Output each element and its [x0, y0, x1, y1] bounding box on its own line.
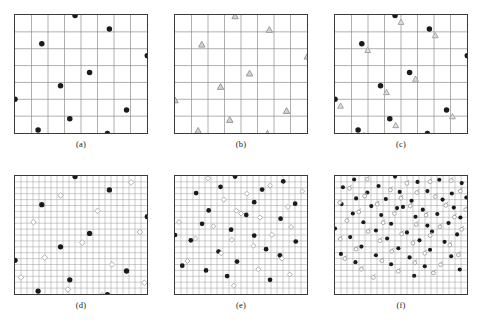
- diamond-marker: [285, 204, 290, 209]
- diamond-marker: [18, 275, 24, 281]
- triangle-marker: [283, 108, 289, 114]
- circle-marker: [385, 236, 389, 240]
- circle-marker: [465, 53, 468, 59]
- circle-marker: [235, 259, 240, 264]
- marker-set-circles: [334, 175, 468, 278]
- circle-marker: [408, 255, 412, 259]
- circle-marker: [341, 185, 345, 189]
- circle-marker: [379, 213, 383, 217]
- circle-marker: [334, 226, 337, 230]
- teardrop-marker: [338, 236, 342, 241]
- teardrop-marker: [392, 210, 396, 215]
- circle-marker: [458, 215, 462, 219]
- circle-marker: [35, 288, 40, 293]
- teardrop-marker: [414, 222, 418, 227]
- circle-marker: [398, 190, 402, 194]
- panel-markers: [15, 176, 147, 294]
- diamond-marker: [142, 280, 148, 286]
- circle-marker: [423, 264, 427, 268]
- circle-marker: [407, 70, 413, 76]
- triangle-marker: [361, 132, 367, 134]
- circle-marker: [393, 175, 397, 179]
- teardrop-marker: [408, 203, 412, 208]
- circle-marker: [145, 214, 148, 219]
- circle-marker: [405, 230, 409, 234]
- panel-markers: [335, 176, 467, 294]
- diamond-marker: [270, 232, 275, 237]
- diamond-marker: [239, 211, 244, 216]
- circle-marker: [107, 187, 112, 192]
- triangle-marker: [195, 127, 201, 133]
- panel-plot-area-a: [14, 14, 148, 134]
- teardrop-marker: [396, 268, 400, 273]
- panel-b: (b): [174, 14, 308, 150]
- circle-marker: [268, 277, 273, 282]
- teardrop-marker: [439, 262, 443, 267]
- panel-label-a: (a): [14, 139, 148, 149]
- triangle-marker: [264, 130, 270, 134]
- diamond-marker: [58, 193, 64, 199]
- circle-marker: [412, 274, 416, 278]
- circle-marker: [425, 131, 431, 134]
- diamond-marker: [99, 292, 105, 295]
- teardrop-marker: [399, 195, 403, 200]
- diamond-marker: [137, 229, 143, 235]
- circle-marker: [452, 206, 456, 210]
- circle-marker: [260, 187, 265, 192]
- circle-marker: [460, 181, 464, 185]
- teardrop-marker: [431, 270, 435, 275]
- panel-label-b: (b): [174, 139, 308, 149]
- diamond-marker: [231, 283, 236, 288]
- circle-marker: [252, 233, 257, 238]
- teardrop-marker: [366, 228, 370, 233]
- panel-a: (a): [14, 14, 148, 150]
- circle-marker: [14, 97, 18, 103]
- triangle-marker: [365, 47, 371, 52]
- teardrop-marker: [348, 185, 352, 190]
- teardrop-marker: [424, 212, 428, 217]
- marker-set-circles: [14, 175, 148, 295]
- circle-marker: [417, 238, 421, 242]
- triangle-marker: [413, 76, 419, 81]
- marker-set-triangles: [338, 19, 468, 134]
- circle-marker: [415, 180, 419, 184]
- circle-marker: [200, 221, 205, 226]
- teardrop-marker: [433, 194, 437, 199]
- teardrop-marker: [380, 258, 384, 263]
- teardrop-marker: [458, 188, 462, 193]
- teardrop-marker: [449, 177, 453, 182]
- teardrop-marker: [371, 274, 375, 279]
- teardrop-marker: [381, 220, 385, 225]
- diamond-marker: [268, 183, 273, 188]
- diamond-marker: [176, 220, 181, 225]
- circle-marker: [107, 26, 113, 32]
- teardrop-marker: [460, 226, 464, 231]
- teardrop-marker: [438, 224, 442, 229]
- circle-marker: [441, 198, 445, 202]
- circle-marker: [425, 223, 429, 227]
- triangle-marker: [384, 89, 390, 94]
- circle-marker: [455, 232, 459, 236]
- marker-set-teardrops: [338, 176, 468, 279]
- circle-marker: [339, 252, 343, 256]
- triangle-marker: [266, 27, 272, 33]
- triangle-marker: [232, 14, 238, 19]
- triangle-marker: [432, 33, 438, 38]
- circle-marker: [252, 200, 257, 205]
- circle-marker: [35, 127, 41, 133]
- panel-markers: [335, 15, 467, 133]
- teardrop-marker: [343, 256, 347, 261]
- circle-marker: [14, 258, 18, 263]
- diamond-marker: [206, 176, 211, 181]
- teardrop-marker: [390, 248, 394, 253]
- teardrop-marker: [453, 214, 457, 219]
- circle-marker: [359, 41, 365, 47]
- circle-marker: [384, 197, 388, 201]
- diamond-marker: [300, 189, 305, 194]
- panel-plot-area-f: [334, 175, 468, 295]
- circle-marker: [392, 14, 398, 18]
- circle-marker: [449, 254, 453, 258]
- circle-marker: [67, 116, 73, 122]
- circle-marker: [180, 263, 185, 268]
- panel-markers: [175, 176, 307, 294]
